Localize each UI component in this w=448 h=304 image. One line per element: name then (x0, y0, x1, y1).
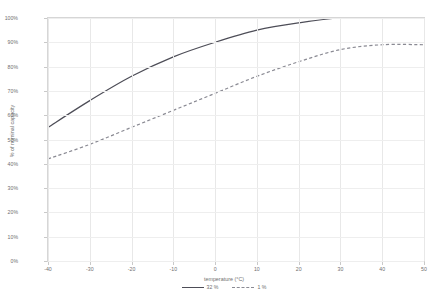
legend-entry-dashed[interactable]: 1 % (232, 284, 266, 290)
y-axis-tick-label: 30% (0, 185, 18, 191)
x-axis-tick-mark (299, 262, 300, 265)
x-axis-tick-label: -10 (160, 266, 186, 272)
x-axis-tick-mark (173, 262, 174, 265)
x-axis-tick-label: 10 (244, 266, 270, 272)
plot-area (47, 17, 425, 262)
chart-figure: % of nominal capacity 0%10%20%30%40%50%6… (0, 0, 448, 304)
y-axis-tick-label: 40% (0, 161, 18, 167)
y-axis-tick-label: 50% (0, 137, 18, 143)
gridline-horizontal (48, 140, 424, 141)
x-axis-tick-label: 20 (286, 266, 312, 272)
y-axis-tick-label: 10% (0, 234, 18, 240)
x-axis-tick-mark (132, 262, 133, 265)
x-axis-tick-mark (90, 262, 91, 265)
y-axis-tick-label: 20% (0, 209, 18, 215)
legend-entry-solid[interactable]: 32 % (182, 284, 219, 290)
x-axis-tick-label: 40 (369, 266, 395, 272)
legend-label-solid: 32 % (207, 284, 219, 290)
y-axis-tick-label: 90% (0, 39, 18, 45)
gridline-horizontal (48, 261, 424, 262)
gridline-horizontal (48, 115, 424, 116)
gridline-horizontal (48, 91, 424, 92)
x-axis-tick-mark (257, 262, 258, 265)
x-axis-tick-label: 30 (327, 266, 353, 272)
legend-swatch-solid-icon (182, 287, 204, 288)
y-axis-tick-label: 70% (0, 88, 18, 94)
gridline-horizontal (48, 67, 424, 68)
x-axis-tick-label: -30 (77, 266, 103, 272)
y-axis-tick-label: 0% (0, 258, 18, 264)
x-axis-tick-mark (424, 262, 425, 265)
x-axis-tick-mark (382, 262, 383, 265)
gridline-horizontal (48, 164, 424, 165)
x-axis-tick-label: -20 (119, 266, 145, 272)
x-axis-title: temperature (°C) (0, 276, 448, 282)
gridline-horizontal (48, 237, 424, 238)
y-axis-tick-label: 80% (0, 64, 18, 70)
y-axis-tick-label: 100% (0, 15, 18, 21)
x-axis-tick-mark (340, 262, 341, 265)
series-line-solid (48, 18, 424, 127)
series-line-dashed (48, 44, 424, 159)
gridline-horizontal (48, 188, 424, 189)
gridline-vertical (424, 18, 425, 261)
gridline-horizontal (48, 42, 424, 43)
chart-legend: 32 % 1 % (0, 284, 448, 290)
legend-label-dashed: 1 % (257, 284, 266, 290)
x-axis-tick-label: 0 (202, 266, 228, 272)
x-axis-tick-mark (48, 262, 49, 265)
x-axis-tick-label: -40 (35, 266, 61, 272)
gridline-horizontal (48, 212, 424, 213)
x-axis-tick-mark (215, 262, 216, 265)
x-axis-tick-label: 50 (411, 266, 437, 272)
y-axis-tick-label: 60% (0, 112, 18, 118)
legend-swatch-dashed-icon (232, 287, 254, 288)
gridline-horizontal (48, 18, 424, 19)
